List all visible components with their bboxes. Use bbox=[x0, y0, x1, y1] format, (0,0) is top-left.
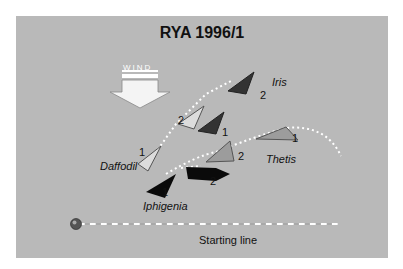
label-iris: Iris bbox=[272, 76, 287, 88]
label-daffodil: Daffodil bbox=[100, 160, 137, 172]
wind-arrow-icon bbox=[110, 70, 170, 108]
label-thetis: Thetis bbox=[266, 153, 296, 165]
label-iphigenia-2: 2 bbox=[210, 175, 216, 187]
boat-iphigenia-2 bbox=[186, 167, 230, 181]
diagram-panel: RYA 1996/1 WIND Iris 2 1 bbox=[16, 16, 388, 258]
starting-line-label: Starting line bbox=[199, 234, 257, 246]
label-daffodil-2: 2 bbox=[178, 114, 184, 126]
label-iris-2: 2 bbox=[260, 89, 266, 101]
label-thetis-2: 2 bbox=[238, 150, 244, 162]
wind-label: WIND bbox=[123, 63, 152, 72]
label-thetis-1: 1 bbox=[292, 132, 298, 144]
boat-iris-2 bbox=[228, 72, 254, 94]
label-iphigenia: Iphigenia bbox=[143, 200, 188, 212]
label-daffodil-1: 1 bbox=[139, 146, 145, 158]
label-iphigenia-1: 1 bbox=[162, 186, 168, 198]
diagram-canvas bbox=[16, 16, 388, 258]
boat-iphigenia-1 bbox=[146, 174, 176, 198]
boat-thetis-2 bbox=[206, 141, 234, 162]
starting-line bbox=[71, 219, 339, 230]
label-iris-1: 1 bbox=[222, 126, 228, 138]
mark-buoy-icon bbox=[71, 219, 82, 230]
boat-iris-1 bbox=[198, 112, 224, 134]
